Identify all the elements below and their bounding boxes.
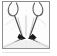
figure-root: [0, 0, 57, 56]
figure-frame: [2, 1, 50, 49]
bottom-margin: [0, 50, 57, 56]
figure-canvas: [3, 2, 49, 48]
bottom-separator-rule: [2, 52, 50, 53]
right-margin: [51, 0, 57, 56]
